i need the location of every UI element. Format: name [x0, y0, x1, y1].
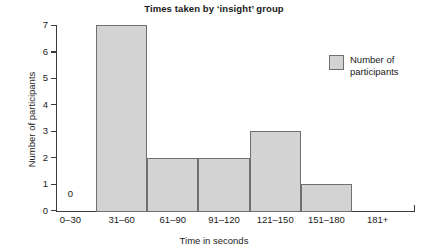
bar-31-60: [96, 25, 147, 211]
chart-legend: Number of participants: [329, 54, 428, 77]
bar-91-120: [198, 158, 249, 212]
bar-151-180: [301, 184, 352, 211]
x-axis-tick-label: 181+: [352, 215, 403, 225]
x-axis-tick-label: 61–90: [147, 215, 198, 225]
x-axis-tick-label: 121–150: [250, 215, 301, 225]
x-axis-tick-label: 0–30: [45, 215, 96, 225]
x-axis-tick-label: 31–60: [96, 215, 147, 225]
bar-121-150: [250, 131, 301, 211]
x-axis-tick-label: 91–120: [198, 215, 249, 225]
x-axis-tick-label: 151–180: [301, 215, 352, 225]
histogram-chart: Times taken by ‘insight’ group 01234567 …: [0, 0, 428, 251]
legend-swatch-number-of-participants: [329, 55, 344, 70]
x-axis-title: Time in seconds: [0, 235, 428, 246]
bar-61-90: [147, 158, 198, 212]
legend-label-number-of-participants: Number of participants: [350, 54, 428, 77]
zero-count-label: 0: [45, 189, 96, 199]
